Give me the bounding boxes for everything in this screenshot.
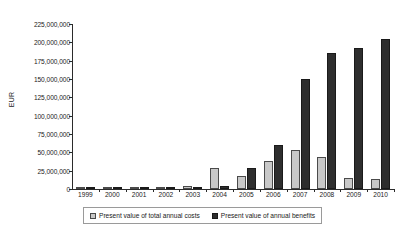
bar-benefits[interactable]: [327, 53, 336, 189]
bar-group: [237, 24, 256, 189]
bar-benefits[interactable]: [274, 145, 283, 189]
y-axis-tick-label: 50,000,000: [18, 149, 70, 156]
y-axis-tick-mark: [69, 42, 72, 43]
y-axis-title: EUR: [8, 80, 15, 120]
bar-benefits[interactable]: [354, 48, 363, 189]
y-axis-tick-label: 150,000,000: [18, 76, 70, 83]
x-axis-tick-label: 2009: [346, 191, 361, 198]
bar-costs[interactable]: [183, 186, 192, 189]
bar-group: [291, 24, 310, 189]
bar-group: [183, 24, 202, 189]
bar-benefits[interactable]: [113, 187, 122, 189]
x-axis-tick-label: 2002: [159, 191, 174, 198]
plot-area: [72, 24, 394, 189]
y-axis-tick-mark: [69, 97, 72, 98]
y-axis-tick-label: 75,000,000: [18, 131, 70, 138]
x-axis-tick-label: 2008: [320, 191, 335, 198]
y-axis-tick-label: 125,000,000: [18, 94, 70, 101]
legend-swatch-benefits-icon: [212, 213, 218, 219]
legend-item-benefits[interactable]: Present value of annual benefits: [212, 212, 315, 219]
bar-costs[interactable]: [210, 168, 219, 189]
legend-label-costs: Present value of total annual costs: [99, 212, 200, 219]
y-axis-tick-mark: [69, 61, 72, 62]
bar-costs[interactable]: [371, 179, 380, 189]
bar-group: [103, 24, 122, 189]
x-axis-tick-label: 1999: [78, 191, 93, 198]
y-axis-tick-mark: [69, 134, 72, 135]
bar-costs[interactable]: [291, 150, 300, 189]
x-axis-tick-label: 2005: [239, 191, 254, 198]
y-axis-tick-label: 200,000,000: [18, 39, 70, 46]
y-axis-tick-mark: [69, 116, 72, 117]
bar-group: [371, 24, 390, 189]
x-axis-tick-mark: [394, 189, 395, 192]
chart-legend: Present value of total annual costs Pres…: [83, 207, 322, 224]
y-axis-tick-mark: [69, 24, 72, 25]
y-axis-tick-mark: [69, 152, 72, 153]
bar-group: [156, 24, 175, 189]
bar-benefits[interactable]: [220, 186, 229, 189]
bar-costs[interactable]: [317, 157, 326, 189]
legend-swatch-costs-icon: [90, 213, 96, 219]
y-axis-tick-label: 25,000,000: [18, 167, 70, 174]
legend-label-benefits: Present value of annual benefits: [221, 212, 315, 219]
bar-costs[interactable]: [237, 176, 246, 189]
bar-benefits[interactable]: [86, 187, 95, 189]
bar-benefits[interactable]: [166, 187, 175, 189]
y-axis-tick-label: 0: [18, 186, 70, 193]
y-axis-tick-mark: [69, 171, 72, 172]
x-axis-tick-label: 2000: [105, 191, 120, 198]
bar-benefits[interactable]: [193, 187, 202, 189]
x-axis-tick-label: 2007: [293, 191, 308, 198]
bar-costs[interactable]: [344, 178, 353, 189]
bar-chart: EUR 225,000,000200,000,000175,000,000150…: [0, 0, 409, 242]
y-axis-tick-mark: [69, 79, 72, 80]
bar-benefits[interactable]: [247, 168, 256, 189]
bar-group: [344, 24, 363, 189]
y-axis-tick-labels: 225,000,000200,000,000175,000,000150,000…: [18, 0, 70, 242]
x-axis-tick-label: 2006: [266, 191, 281, 198]
bar-costs[interactable]: [156, 187, 165, 189]
bar-group: [264, 24, 283, 189]
x-axis-tick-labels: 1999200020012002200320042005200620072008…: [72, 191, 394, 203]
y-axis-tick-label: 225,000,000: [18, 21, 70, 28]
bar-group: [317, 24, 336, 189]
x-axis-tick-label: 2003: [185, 191, 200, 198]
bar-costs[interactable]: [103, 187, 112, 189]
bar-benefits[interactable]: [381, 39, 390, 189]
legend-item-costs[interactable]: Present value of total annual costs: [90, 212, 200, 219]
y-axis-tick-label: 100,000,000: [18, 112, 70, 119]
x-axis-tick-label: 2001: [132, 191, 147, 198]
y-axis-tick-label: 175,000,000: [18, 57, 70, 64]
x-axis-tick-label: 2010: [373, 191, 388, 198]
x-axis-tick-label: 2004: [212, 191, 227, 198]
bar-costs[interactable]: [264, 161, 273, 189]
bar-benefits[interactable]: [140, 187, 149, 189]
bar-group: [130, 24, 149, 189]
bar-group: [210, 24, 229, 189]
bar-costs[interactable]: [76, 187, 85, 189]
y-axis-tick-mark: [69, 189, 72, 190]
bar-group: [76, 24, 95, 189]
y-axis-line: [72, 24, 73, 189]
bar-costs[interactable]: [130, 187, 139, 189]
bar-benefits[interactable]: [301, 79, 310, 189]
